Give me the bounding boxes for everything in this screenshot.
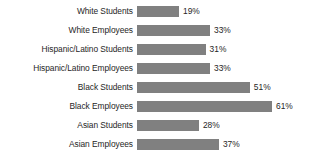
bar-value-label: 19% — [179, 6, 200, 17]
bar-row: White Employees 33% — [0, 21, 312, 40]
bar-fill — [137, 63, 210, 74]
bar-row: Black Employees 61% — [0, 97, 312, 116]
category-label: White Employees — [0, 25, 133, 36]
category-label: Hispanic/Latino Students — [0, 44, 133, 55]
category-label: Asian Students — [0, 120, 133, 131]
horizontal-bar-chart: White Students 19% White Employees 33% H… — [0, 0, 312, 153]
category-label: Black Students — [0, 82, 133, 93]
bar-value-label: 61% — [272, 101, 293, 112]
plot-area: White Students 19% White Employees 33% H… — [0, 0, 312, 153]
bar-value-label: 31% — [206, 44, 227, 55]
bar-fill — [137, 120, 199, 131]
bar-fill — [137, 44, 206, 55]
bar-fill — [137, 101, 272, 112]
bar-track: 33% — [137, 63, 312, 74]
bar-row: Asian Employees 37% — [0, 135, 312, 153]
category-label: Black Employees — [0, 101, 133, 112]
category-label: Hispanic/Latino Employees — [0, 63, 133, 74]
bar-row: Hispanic/Latino Students 31% — [0, 40, 312, 59]
bar-fill — [137, 6, 179, 17]
bar-fill — [137, 25, 210, 36]
bar-track: 61% — [137, 101, 312, 112]
bar-value-label: 37% — [219, 139, 240, 150]
bar-track: 19% — [137, 6, 312, 17]
bar-track: 37% — [137, 139, 312, 150]
bar-value-label: 33% — [210, 25, 231, 36]
bar-track: 31% — [137, 44, 312, 55]
category-label: White Students — [0, 6, 133, 17]
bar-value-label: 51% — [250, 82, 271, 93]
bar-row: White Students 19% — [0, 2, 312, 21]
bar-row: Hispanic/Latino Employees 33% — [0, 59, 312, 78]
bar-track: 28% — [137, 120, 312, 131]
bar-value-label: 28% — [199, 120, 220, 131]
bar-fill — [137, 82, 250, 93]
bar-value-label: 33% — [210, 63, 231, 74]
bar-row: Asian Students 28% — [0, 116, 312, 135]
category-label: Asian Employees — [0, 139, 133, 150]
bar-track: 33% — [137, 25, 312, 36]
bar-fill — [137, 139, 219, 150]
bar-row: Black Students 51% — [0, 78, 312, 97]
bar-track: 51% — [137, 82, 312, 93]
